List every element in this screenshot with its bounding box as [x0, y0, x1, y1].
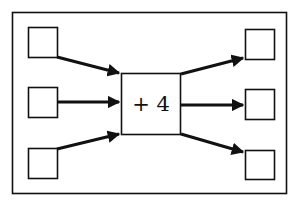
output-box-3[interactable]	[246, 151, 275, 180]
function-machine-diagram: + 4	[0, 0, 297, 211]
arrow-icon	[181, 58, 243, 74]
input-boxes	[29, 28, 58, 179]
arrow-icon	[57, 57, 119, 73]
input-arrows	[57, 57, 119, 149]
output-arrows	[181, 58, 243, 152]
operation-box: + 4	[122, 74, 181, 135]
output-box-2[interactable]	[246, 90, 275, 120]
arrow-icon	[181, 134, 243, 152]
arrow-icon	[57, 134, 119, 149]
output-box-1[interactable]	[246, 30, 275, 60]
output-boxes	[246, 30, 275, 180]
operation-label: + 4	[132, 92, 170, 116]
input-box-1[interactable]	[29, 28, 58, 58]
input-box-3[interactable]	[29, 149, 58, 179]
input-box-2[interactable]	[29, 88, 58, 118]
